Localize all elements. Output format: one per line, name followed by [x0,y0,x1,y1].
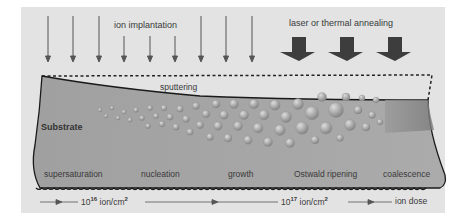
diagram-graphics [0,0,473,224]
stage-label-supersaturation: supersaturation [44,169,103,179]
stage-label-coalescence: coalescence [383,169,430,179]
stage-label-growth: growth [228,169,254,179]
ion-implantation-label: ion implantation [114,20,177,30]
dose-label-1e16: 1016 ion/cm2 [81,196,128,207]
stage-label-ostwald-ripening: Ostwald ripening [294,169,357,179]
stage-label-nucleation: nucleation [141,169,180,179]
dose-label-1e17: 1017 ion/cm2 [281,196,328,207]
annealing-arrows [280,37,411,61]
ion-dose-label: ion dose [395,196,427,206]
annealing-label: laser or thermal annealing [289,18,393,28]
sputtering-label: sputtering [160,82,197,92]
substrate-label: Substrate [41,122,83,132]
